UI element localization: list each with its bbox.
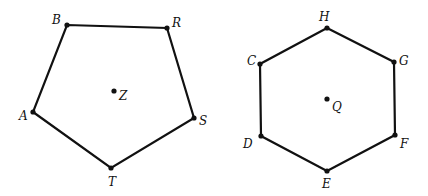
hexagon-figure: HGFEDCQ <box>242 10 409 191</box>
vertex-label-s: S <box>199 114 207 128</box>
vertex-label-c: C <box>247 54 256 68</box>
pentagon-figure: BRSTAZ <box>18 13 207 189</box>
pentagon-outline <box>33 25 194 168</box>
vertex-label-h: H <box>318 10 330 24</box>
vertex-label-t: T <box>108 175 117 189</box>
vertex-point-b <box>64 22 69 27</box>
geometry-diagram: BRSTAZHGFEDCQ <box>0 0 428 196</box>
center-label-q: Q <box>332 100 342 114</box>
vertex-point-c <box>257 61 262 66</box>
vertex-label-r: R <box>171 16 181 30</box>
vertex-label-a: A <box>18 109 28 123</box>
center-label-z: Z <box>118 89 128 103</box>
vertex-label-g: G <box>399 54 409 68</box>
vertex-point-h <box>324 25 329 30</box>
vertex-label-f: F <box>399 137 409 151</box>
vertex-label-e: E <box>321 177 331 191</box>
vertex-label-b: B <box>51 13 61 27</box>
vertex-point-d <box>258 133 263 138</box>
vertex-label-d: D <box>242 137 253 151</box>
vertex-point-t <box>108 165 113 170</box>
vertex-point-f <box>392 132 397 137</box>
vertex-point-r <box>164 25 169 30</box>
center-point-z <box>111 88 116 93</box>
vertex-point-s <box>191 115 196 120</box>
center-point-q <box>324 96 329 101</box>
vertex-point-a <box>30 109 35 114</box>
vertex-point-e <box>324 168 329 173</box>
vertex-point-g <box>391 59 396 64</box>
